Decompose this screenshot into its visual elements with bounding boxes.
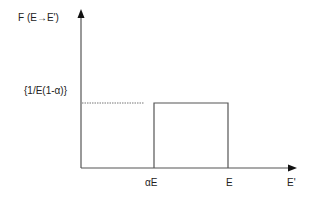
x-tick-e: E [226, 177, 233, 189]
distribution-box [154, 103, 228, 168]
y-level-label: {1/E(1-α)} [24, 85, 67, 97]
x-tick-alpha-e: αE [145, 177, 157, 189]
diagram-canvas [0, 0, 313, 206]
x-axis-arrow-icon [288, 165, 297, 172]
x-axis-label: E' [287, 177, 296, 189]
y-axis-arrow-icon [78, 9, 85, 18]
y-axis-label: F (E→E') [18, 12, 59, 24]
